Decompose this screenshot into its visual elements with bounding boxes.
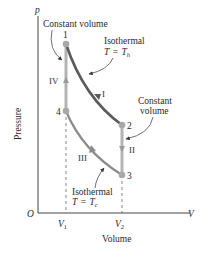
constant-volume-right-line1: Constant [138, 96, 172, 106]
isothermal-hot-pointer [89, 58, 113, 74]
isothermal-hot-title: Isothermal [104, 36, 145, 46]
point-1-marker [63, 41, 70, 48]
isothermal-cold-title: Isothermal [72, 187, 113, 197]
point-3-label: 3 [127, 171, 132, 181]
process-iii-label: III [78, 153, 87, 163]
process-ii-label: II [129, 145, 135, 155]
pv-diagram: 1 4 2 3 IV I II III Constant volume Isot… [0, 0, 207, 259]
p-axis-symbol: p [34, 5, 40, 15]
v-axis-symbol: V [188, 209, 195, 219]
constant-volume-left-label: Constant volume [43, 19, 108, 29]
constant-volume-right-line2: volume [140, 106, 169, 116]
process-iv-label: IV [49, 76, 59, 86]
volume-axis-label: Volume [102, 234, 131, 244]
process-iii-arrow-icon [89, 145, 96, 153]
v1-tick-label: V1 [58, 219, 67, 230]
point-4-label: 4 [56, 107, 61, 117]
point-1-label: 1 [63, 30, 68, 40]
point-2-marker [119, 122, 126, 129]
v2-tick-label: V2 [115, 219, 124, 230]
pressure-axis-label: Pressure [13, 108, 23, 140]
process-ii-arrow-icon [119, 146, 125, 152]
point-4-marker [63, 108, 70, 115]
point-3-marker [119, 172, 126, 179]
isothermal-cold-equation: T = Tc [72, 197, 98, 208]
point-2-label: 2 [127, 121, 132, 131]
origin-label: O [27, 209, 34, 219]
constant-volume-left-pointer [51, 30, 62, 60]
process-i-label: I [102, 89, 105, 99]
isothermal-cold-pointer [95, 168, 104, 188]
process-iv-arrow-icon [63, 77, 69, 83]
process-iii-curve [66, 111, 122, 175]
isothermal-hot-equation: T = Th [104, 47, 130, 58]
